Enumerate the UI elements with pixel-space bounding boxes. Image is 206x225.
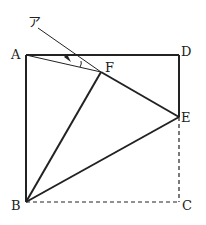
segment-BE: [26, 117, 179, 202]
label-A: A: [10, 47, 21, 62]
pointer-line: [38, 28, 101, 72]
geometry-diagram: ア A D F E B C: [0, 0, 206, 225]
angle-arc: [80, 61, 81, 67]
segment-BF: [26, 72, 101, 202]
label-D: D: [181, 44, 191, 59]
label-B: B: [11, 198, 21, 213]
segment-AF: [26, 55, 101, 72]
segment-FE: [101, 72, 179, 117]
label-angle: ア: [28, 14, 41, 29]
label-F: F: [105, 60, 114, 75]
label-C: C: [182, 198, 192, 213]
label-E: E: [181, 110, 191, 125]
